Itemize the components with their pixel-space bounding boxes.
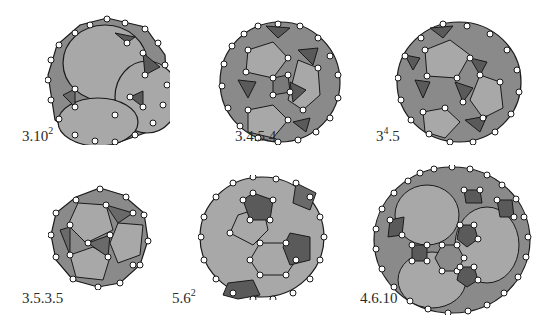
- label-base: 3.4.5.4: [235, 128, 276, 144]
- truncated-dodecahedron-illustration: [45, 15, 170, 145]
- label-sup: 4: [384, 125, 389, 136]
- label-truncated-icosidodecahedron: 4.6.10: [360, 290, 398, 307]
- label-sup: 2: [191, 287, 196, 298]
- label-truncated-icosahedron: 5.62: [172, 290, 196, 307]
- label-sup: 2: [48, 125, 53, 136]
- polyhedron-rhombicosidodecahedron: [218, 20, 343, 145]
- snub-dodecahedron-illustration: [395, 20, 525, 145]
- label-base: 3: [376, 128, 384, 144]
- label-base: 3.10: [22, 128, 48, 144]
- label-icosidodecahedron: 3.5.3.5: [22, 290, 63, 307]
- label-snub-dodecahedron: 34.5: [376, 128, 400, 145]
- truncated-icosahedron-illustration: [198, 175, 328, 300]
- label-base: 4.6.10: [360, 290, 398, 306]
- polyhedron-icosidodecahedron: [48, 185, 153, 290]
- label-base: 3.5.3.5: [22, 290, 63, 306]
- label-tail: .5: [389, 128, 400, 144]
- label-truncated-dodecahedron: 3.102: [22, 128, 53, 145]
- polyhedron-snub-dodecahedron: [395, 20, 525, 145]
- label-rhombicosidodecahedron: 3.4.5.4: [235, 128, 276, 145]
- polyhedron-truncated-dodecahedron: [45, 15, 170, 145]
- label-base: 5.6: [172, 290, 191, 306]
- rhombicosidodecahedron-illustration: [218, 20, 343, 145]
- polyhedron-truncated-icosahedron: [198, 175, 328, 300]
- icosidodecahedron-illustration: [48, 185, 153, 290]
